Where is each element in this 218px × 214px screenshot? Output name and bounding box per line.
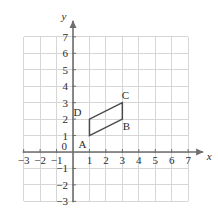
x-tick-label: 6 — [169, 154, 175, 166]
x-tick-label: 2 — [103, 154, 109, 166]
y-tick-label: 2 — [63, 113, 69, 125]
vertex-label-c: C — [122, 89, 129, 101]
coordinate-plane-figure: −3−2−1012345677654321−1−2−3 ABCD xy — [0, 0, 218, 214]
y-tick-label: −3 — [56, 195, 68, 207]
y-tick-label: 6 — [63, 47, 69, 59]
vertex-label-b: B — [123, 120, 130, 132]
y-tick-label: 1 — [63, 130, 69, 142]
vertex-label-a: A — [78, 138, 86, 150]
x-tick-label: 4 — [136, 154, 142, 166]
x-tick-label: −3 — [18, 154, 30, 166]
origin-label: 0 — [62, 140, 68, 152]
x-tick-label: 7 — [185, 154, 191, 166]
y-tick-label: 3 — [63, 97, 69, 109]
grid-lines — [24, 37, 189, 202]
axis-lines — [23, 21, 204, 203]
x-axis-name: x — [206, 150, 212, 162]
y-tick-label: 5 — [63, 64, 69, 76]
x-tick-label: 3 — [120, 154, 126, 166]
y-tick-label: −2 — [56, 179, 68, 191]
x-tick-label: 5 — [153, 154, 159, 166]
coordinate-plot: −3−2−1012345677654321−1−2−3 ABCD xy — [0, 0, 218, 214]
vertex-label-d: D — [73, 106, 81, 118]
y-axis-name: y — [61, 10, 67, 22]
x-tick-label: 1 — [87, 154, 93, 166]
y-tick-label: 4 — [63, 80, 69, 92]
y-tick-label: 7 — [63, 31, 69, 43]
y-tick-label: −1 — [56, 162, 68, 174]
x-tick-label: −2 — [34, 154, 46, 166]
